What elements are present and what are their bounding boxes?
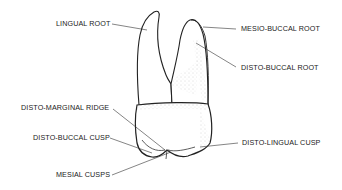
- label-disto-lingual-cusp: DISTO-LINGUAL CUSP: [242, 139, 320, 147]
- label-disto-buccal-root: DISTO-BUCCAL ROOT: [241, 64, 319, 72]
- label-mesial-cusps: MESIAL CUSPS: [56, 171, 110, 179]
- label-lingual-root: LINGUAL ROOT: [56, 20, 110, 28]
- tooth-diagram: LINGUAL ROOT MESIO-BUCCAL ROOT DISTO-BUC…: [0, 0, 342, 190]
- label-disto-marginal-ridge: DISTO-MARGINAL RIDGE: [21, 104, 109, 112]
- label-mesio-buccal-root: MESIO-BUCCAL ROOT: [241, 25, 320, 33]
- label-disto-buccal-cusp: DISTO-BUCCAL CUSP: [33, 134, 110, 142]
